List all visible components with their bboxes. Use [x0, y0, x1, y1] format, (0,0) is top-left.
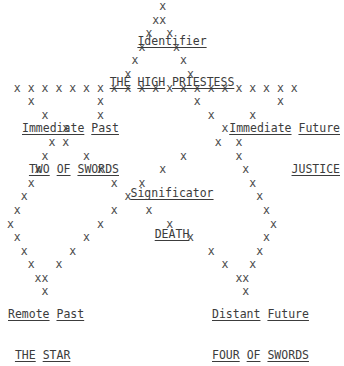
immediate-past-role-word-1: Immediate: [22, 121, 84, 135]
identifier-role-line: Identifier: [0, 35, 344, 49]
distant-future-card-word-2: OF: [247, 348, 261, 362]
immediate-past-card-word-1: TWO: [29, 162, 50, 176]
identifier-card-line: THE HIGH PRIESTESS: [0, 76, 344, 90]
immediate-future-role-line: Immediate Future: [200, 122, 340, 136]
significator-role-line: Significator: [97, 187, 247, 201]
remote-past-role-word-1: Remote: [8, 307, 50, 321]
immediate-past-role-line: Immediate Past: [22, 122, 172, 136]
identifier-role: Identifier: [137, 34, 206, 48]
label-remote-past: Remote Past THE STAR: [8, 281, 158, 366]
distant-future-card-word-3: SWORDS: [267, 348, 309, 362]
remote-past-role-word-2: Past: [56, 307, 84, 321]
significator-card-line: DEATH: [97, 228, 247, 242]
immediate-future-role-word-2: Future: [298, 121, 340, 135]
distant-future-role-word-1: Distant: [212, 307, 260, 321]
identifier-card-word-1: THE: [110, 75, 131, 89]
immediate-future-role-word-1: Immediate: [229, 121, 291, 135]
remote-past-card-word-2: STAR: [43, 348, 71, 362]
immediate-past-card-word-2: OF: [57, 162, 71, 176]
significator-role: Significator: [130, 186, 213, 200]
immediate-future-card: JUSTICE: [292, 162, 340, 176]
identifier-card-word-3: PRIESTESS: [172, 75, 234, 89]
remote-past-role-line: Remote Past: [8, 308, 158, 322]
label-significator: Significator DEATH: [97, 160, 247, 269]
distant-future-card-word-1: FOUR: [212, 348, 240, 362]
distant-future-role-word-2: Future: [267, 307, 309, 321]
distant-future-card-line: FOUR OF SWORDS: [212, 349, 342, 363]
distant-future-role-line: Distant Future: [212, 308, 342, 322]
label-distant-future: Distant Future FOUR OF SWORDS: [212, 281, 342, 366]
immediate-past-role-word-2: Past: [91, 121, 119, 135]
identifier-card-word-2: HIGH: [137, 75, 165, 89]
significator-card: DEATH: [155, 227, 190, 241]
remote-past-card-word-1: THE: [15, 348, 36, 362]
remote-past-card-line: THE STAR: [8, 349, 158, 363]
